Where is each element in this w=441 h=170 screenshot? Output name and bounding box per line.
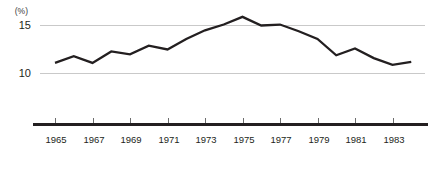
x-tick-label-1967: 1967	[83, 134, 104, 145]
y-tick-label-15: 15	[19, 19, 31, 31]
chart-canvas: (%) 15 10 1965	[0, 0, 441, 170]
x-tick-label-1969: 1969	[120, 134, 141, 145]
x-tick-label-1975: 1975	[233, 134, 254, 145]
x-tick-label-1965: 1965	[45, 134, 66, 145]
x-tick-label-1983: 1983	[383, 134, 404, 145]
x-tick-label-1973: 1973	[195, 134, 216, 145]
x-tick-label-1977: 1977	[270, 134, 291, 145]
x-tick-label-1979: 1979	[308, 134, 329, 145]
line-chart: (%) 15 10 1965	[0, 0, 441, 170]
y-axis-unit-label: (%)	[15, 6, 28, 16]
x-tick-label-1981: 1981	[345, 134, 366, 145]
x-tick-label-1971: 1971	[158, 134, 179, 145]
y-tick-label-10: 10	[19, 67, 31, 79]
